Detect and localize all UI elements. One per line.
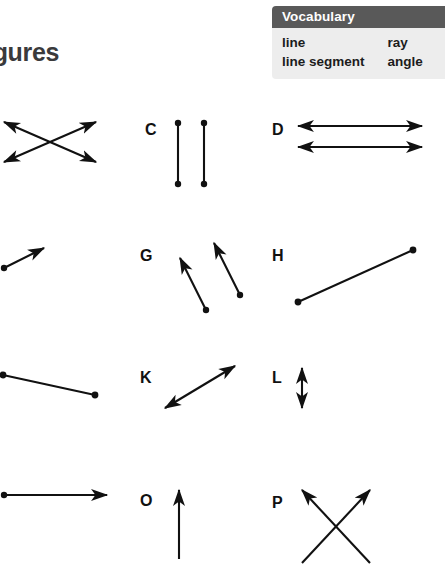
figure-c-graphic xyxy=(163,112,223,197)
figure-k-graphic xyxy=(156,360,266,420)
figure-n-graphic xyxy=(0,485,120,515)
figure-label: C xyxy=(145,122,157,138)
vocabulary-row: line ray xyxy=(282,33,445,52)
figure-label: H xyxy=(272,248,284,264)
figure-o-graphic xyxy=(156,485,216,565)
figure-label: P xyxy=(272,495,283,511)
vocabulary-header: Vocabulary xyxy=(272,6,445,28)
vocabulary-body: line ray line segment angle xyxy=(272,28,445,79)
figure-label: L xyxy=(272,370,282,386)
figure-f-graphic xyxy=(0,240,60,280)
figure-d-graphic xyxy=(292,112,437,162)
figure-label: D xyxy=(272,122,284,138)
figure-l-graphic xyxy=(292,360,342,420)
figure-label: G xyxy=(140,248,152,264)
vocabulary-term: ray xyxy=(387,33,445,52)
figure-j-graphic xyxy=(0,365,110,405)
page-title: igures xyxy=(0,38,59,67)
figure-h-graphic xyxy=(292,240,437,320)
vocabulary-term: line xyxy=(282,33,387,52)
vocabulary-term: angle xyxy=(387,52,445,71)
figure-b-graphic xyxy=(0,112,105,172)
figure-label: K xyxy=(140,370,152,386)
figure-g-graphic xyxy=(156,240,246,320)
figure-p-graphic xyxy=(292,485,432,565)
figure-label: O xyxy=(140,493,152,509)
vocabulary-term: line segment xyxy=(282,52,387,71)
vocabulary-box: Vocabulary line ray line segment angle xyxy=(272,6,445,79)
vocabulary-row: line segment angle xyxy=(282,52,445,71)
